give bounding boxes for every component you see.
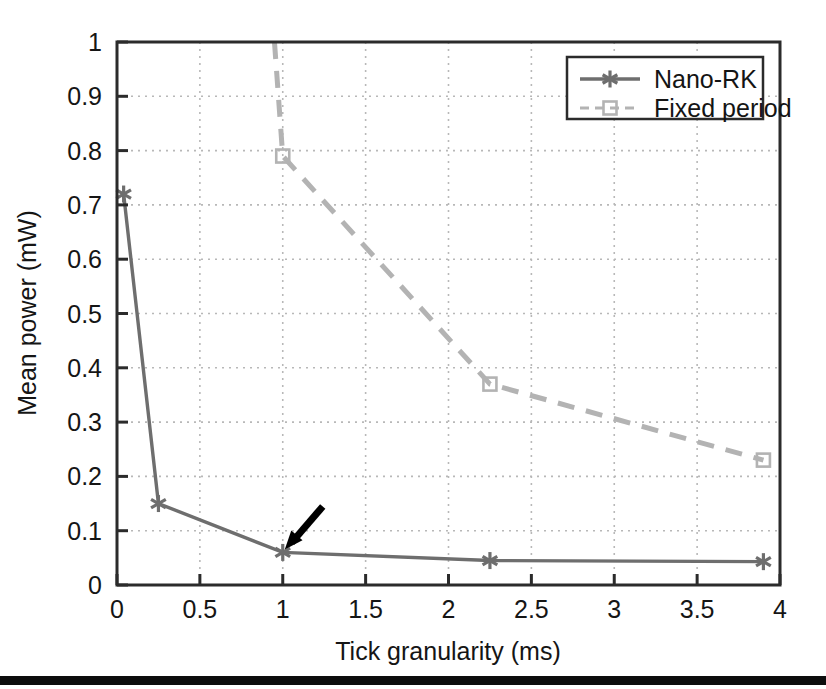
figure-container: 00.10.20.30.40.50.60.70.80.91 00.511.522… — [0, 0, 826, 689]
y-axis-title: Mean power (mW) — [13, 210, 41, 416]
y-tick-label: 0.7 — [67, 191, 102, 219]
x-tick-label: 4 — [773, 595, 787, 623]
y-tick-label: 0.3 — [67, 408, 102, 436]
x-tick-label: 1.5 — [348, 595, 383, 623]
y-tick-label: 0.4 — [67, 354, 102, 382]
x-tick-label: 2 — [442, 595, 456, 623]
x-tick-label: 0 — [110, 595, 124, 623]
y-tick-label: 0.9 — [67, 82, 102, 110]
bottom-rule — [0, 676, 826, 685]
mean-power-vs-tick-granularity-chart: 00.10.20.30.40.50.60.70.80.91 00.511.522… — [0, 0, 826, 689]
legend-label: Nano-RK — [654, 65, 757, 93]
x-axis-tick-labels: 00.511.522.533.54 — [110, 595, 787, 623]
x-tick-label: 3.5 — [680, 595, 715, 623]
y-tick-label: 0.8 — [67, 137, 102, 165]
x-tick-label: 0.5 — [182, 595, 217, 623]
legend[interactable]: Nano-RKFixed period — [567, 57, 792, 122]
x-tick-label: 2.5 — [514, 595, 549, 623]
y-tick-label: 0.2 — [67, 462, 102, 490]
y-tick-label: 1 — [88, 28, 102, 56]
y-tick-label: 0.6 — [67, 245, 102, 273]
x-tick-label: 1 — [276, 595, 290, 623]
y-tick-label: 0.5 — [67, 300, 102, 328]
legend-label: Fixed period — [654, 94, 792, 122]
y-tick-label: 0 — [88, 571, 102, 599]
y-axis-tick-labels: 00.10.20.30.40.50.60.70.80.91 — [67, 28, 102, 599]
x-tick-label: 3 — [607, 595, 621, 623]
y-tick-label: 0.1 — [67, 517, 102, 545]
x-axis-title: Tick granularity (ms) — [335, 637, 561, 665]
